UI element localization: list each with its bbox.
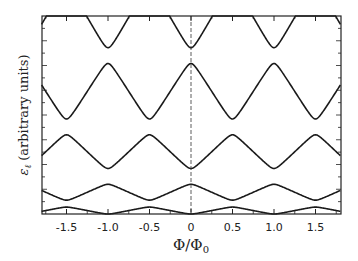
x-tick-labels: -1.5-1.0-0.500.51.01.5: [56, 221, 324, 234]
x-tick-label: 0: [188, 221, 195, 234]
x-axis-title: Φ/Φ0: [173, 236, 209, 255]
x-tick-label: -0.5: [139, 221, 160, 234]
x-tick-label: 1.0: [265, 221, 283, 234]
x-tick-label: 0.5: [224, 221, 242, 234]
x-tick-label: -1.5: [56, 221, 77, 234]
y-axis-title: εℓ(arbitrary units): [16, 54, 33, 175]
chart: -1.5-1.0-0.500.51.01.5 Φ/Φ0 εℓ(arbitrary…: [0, 0, 358, 261]
x-tick-label: -1.0: [97, 221, 118, 234]
x-tick-label: 1.5: [307, 221, 325, 234]
